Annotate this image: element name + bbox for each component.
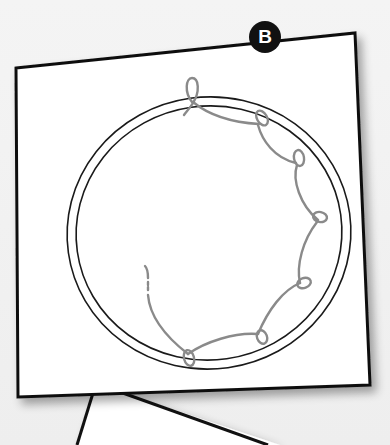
illustration-canvas: [0, 0, 390, 445]
callout-pointer: [76, 392, 280, 445]
diagram-stage: B: [0, 0, 390, 445]
step-badge-label: B: [249, 21, 281, 53]
